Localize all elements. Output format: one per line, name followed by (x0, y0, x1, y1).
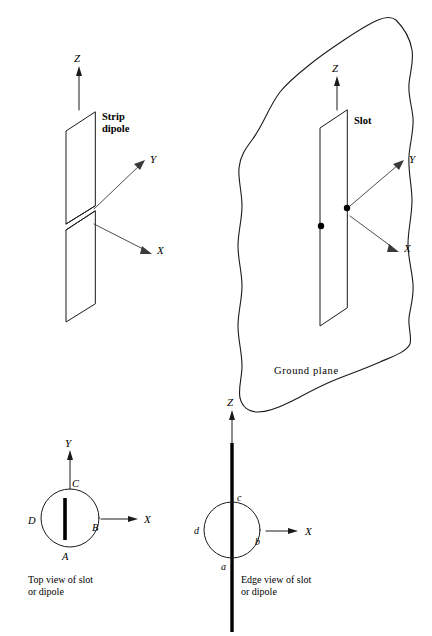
edge-view-point-a-label: a (221, 561, 226, 572)
slot-x-axis (350, 216, 399, 252)
edge-view-x-axis-label: X (304, 525, 313, 537)
strip-dipole-gap-edge-lower (66, 211, 95, 230)
panel-edge-view: Z X c b a d Edge view of slot or dipole (194, 396, 313, 632)
top-view-y-axis-label: Y (65, 437, 73, 449)
top-view-point-b-label: B (92, 522, 99, 533)
slot-y-axis (350, 160, 404, 206)
top-view-x-axis (101, 516, 138, 522)
edge-view-caption-line2: or dipole (241, 586, 277, 597)
strip-dipole-y-axis (94, 160, 145, 209)
slot-feed-point-front (344, 205, 350, 211)
edge-view-x-axis (266, 528, 298, 534)
strip-dipole-x-axis-label: X (156, 244, 165, 256)
edge-view-point-c-label: c (237, 492, 242, 503)
panel-slot-ground-plane: Z Slot Y X Ground plane (238, 17, 417, 412)
slot-y-axis-label: Y (409, 153, 417, 165)
edge-view-point-b-label: b (255, 536, 260, 547)
slot-x-axis-label: X (403, 242, 412, 254)
top-view-x-axis-label: X (143, 513, 152, 525)
antenna-figure: Z Strip dipole Y X (0, 0, 432, 636)
top-view-point-a-label: A (61, 551, 69, 562)
slot-z-axis-label: Z (332, 62, 339, 74)
edge-view-caption-line1: Edge view of slot (241, 574, 311, 585)
slot-title: Slot (354, 115, 372, 126)
edge-view-z-axis-label: Z (227, 396, 234, 408)
ground-plane-label: Ground plane (274, 365, 339, 376)
panel-strip-dipole: Z Strip dipole Y X (66, 52, 165, 322)
top-view-caption-line1: Top view of slot (28, 574, 93, 585)
strip-dipole-x-axis (94, 224, 152, 254)
slot-feed-point-back (318, 223, 324, 229)
top-view-caption-line2: or dipole (28, 586, 64, 597)
strip-dipole-z-axis-label: Z (74, 52, 81, 64)
strip-dipole-title-line1: Strip (102, 111, 125, 122)
strip-dipole-gap-edge-upper (66, 206, 95, 224)
edge-view-z-axis (229, 410, 235, 443)
edge-view-point-d-label: d (194, 525, 200, 536)
strip-dipole-z-axis (76, 66, 82, 110)
slot-z-axis (334, 76, 340, 110)
panel-top-view: Y X C B A D Top view of slot or dipole (27, 437, 152, 597)
strip-dipole-upper-plate (66, 112, 95, 224)
ground-plane-outline (238, 17, 413, 412)
strip-dipole-y-axis-label: Y (150, 153, 158, 165)
strip-dipole-title-line2: dipole (102, 123, 130, 134)
top-view-circle (41, 489, 99, 547)
slot-aperture (320, 110, 347, 326)
top-view-point-c-label: C (72, 478, 80, 489)
top-view-point-d-label: D (27, 515, 36, 526)
